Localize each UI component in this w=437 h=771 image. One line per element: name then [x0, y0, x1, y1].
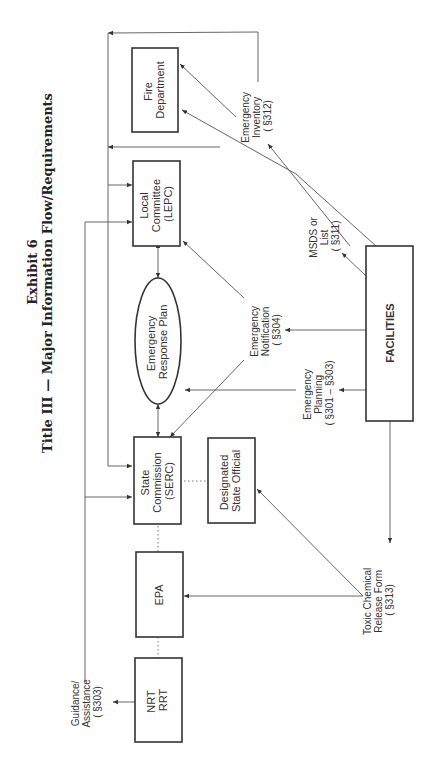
node-designated-official: Designated State Official	[208, 438, 255, 523]
emergency-inventory-label: Emergency Inventory ( §312)	[240, 89, 273, 142]
exhibit-title: Title III — Major Information Flow/Requi…	[40, 93, 55, 453]
serc-line-1: State	[139, 470, 151, 496]
exhibit-header: Exhibit 6 Title III — Major Information …	[25, 93, 55, 453]
erp-line-2: Response Plan	[157, 305, 169, 380]
inventory-to-fire-arrow	[180, 64, 236, 117]
lepc-line-1: Local	[138, 192, 150, 218]
serc-line-3: (SERC)	[163, 462, 175, 500]
node-nrt-rrt: NRT RRT	[135, 658, 182, 742]
erp-line-1: Emergency	[145, 315, 157, 371]
node-facilities: FACILITIES	[366, 246, 413, 421]
node-fire-department: Fire Department	[132, 48, 178, 132]
svg-text:Emergency Response Plan: Emergency Response Plan	[145, 305, 169, 380]
svg-text:Designated State Officia: Designated State Official	[218, 450, 242, 512]
node-lepc: Local Committee (LEPC)	[133, 161, 180, 246]
node-serc: State Commission (SERC)	[134, 437, 181, 524]
lepc-line-3: (LEPC)	[162, 186, 174, 222]
diagram-canvas: Exhibit 6 Title III — Major Information …	[0, 0, 437, 771]
nrt-label: NRT	[145, 690, 157, 713]
designated-line-2: State Official	[230, 450, 242, 512]
notification-to-serc-arrow	[170, 360, 244, 437]
notification-to-lepc-arrow	[183, 241, 244, 298]
msds-to-fire-arrow	[182, 110, 296, 174]
facilities-to-msds-arrow	[342, 253, 366, 276]
facilities-label: FACILITIES	[384, 303, 396, 362]
toxic-to-designated-arrow	[257, 489, 363, 596]
guidance-label: Guidance/ Assistance ( §303)	[70, 676, 103, 727]
svg-text:NRT RRT: NRT RRT	[145, 687, 169, 712]
msds-label: MSDS or List ( §311)	[308, 214, 341, 257]
exhibit-number: Exhibit 6	[25, 239, 40, 305]
fire-line-1: Fire	[142, 82, 154, 101]
lepc-line-2: Committee	[150, 179, 162, 232]
node-emergency-response-plan: Emergency Response Plan	[135, 278, 181, 404]
connectors	[85, 32, 390, 702]
serc-line-2: Commission	[151, 452, 163, 513]
emergency-planning-label: Emergency Planning ( §301 – §303)	[302, 360, 335, 425]
rrt-label: RRT	[157, 689, 169, 712]
node-epa: EPA	[136, 552, 183, 637]
epa-label: EPA	[153, 584, 165, 606]
toxic-chemical-label: Toxic Chemical Release Form ( §313)	[362, 565, 395, 635]
fire-line-2: Department	[154, 61, 166, 118]
inventory-top-line	[108, 32, 258, 82]
designated-line-1: Designated	[218, 455, 230, 511]
emergency-notification-label: Emergency Notification ( §304)	[249, 303, 282, 356]
